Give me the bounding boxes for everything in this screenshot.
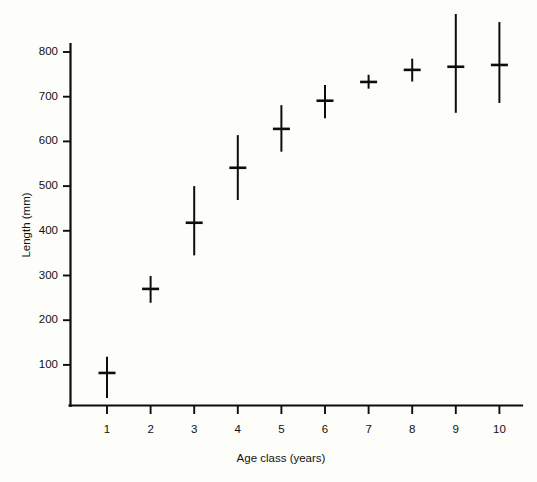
y-tick-label-700: 700	[39, 90, 58, 102]
x-tick-label-6: 6	[322, 423, 328, 435]
x-axis-title: Age class (years)	[237, 452, 326, 464]
y-axis-ticks: 800 700 600 500 400 300 200 100	[39, 45, 70, 370]
y-tick-label-400: 400	[39, 224, 58, 236]
y-tick-label-300: 300	[39, 269, 58, 281]
x-tick-label-7: 7	[365, 423, 371, 435]
y-axis-title: Length (mm)	[20, 192, 32, 257]
x-tick-label-8: 8	[409, 423, 415, 435]
axes-group	[70, 44, 523, 406]
y-tick-label-600: 600	[39, 134, 58, 146]
y-tick-label-500: 500	[39, 179, 58, 191]
y-tick-label-100: 100	[39, 358, 58, 370]
x-tick-label-4: 4	[235, 423, 242, 435]
x-tick-label-2: 2	[147, 423, 153, 435]
x-tick-label-10: 10	[493, 423, 506, 435]
chart-canvas: 800 700 600 500 400 300 200 100 1 2 3	[0, 0, 537, 482]
x-tick-label-1: 1	[104, 423, 110, 435]
x-tick-label-3: 3	[191, 423, 197, 435]
x-tick-label-9: 9	[453, 423, 459, 435]
chart-figure: 800 700 600 500 400 300 200 100 1 2 3	[0, 0, 537, 482]
y-tick-label-800: 800	[39, 45, 58, 57]
x-tick-label-5: 5	[278, 423, 284, 435]
y-tick-label-200: 200	[39, 313, 58, 325]
data-series-group	[99, 14, 508, 398]
x-axis-ticks: 1 2 3 4 5 6 7 8 9 10	[104, 406, 506, 435]
